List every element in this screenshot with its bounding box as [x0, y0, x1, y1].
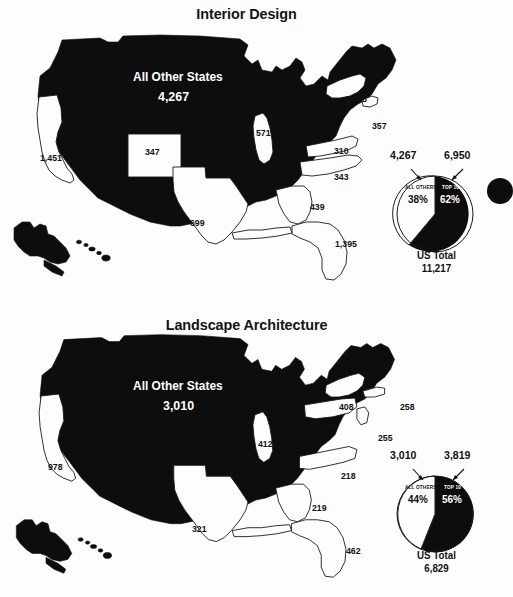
- pie-label-all-others-name: ALL OTHERS: [405, 184, 437, 190]
- pie-label-all-others-pct: 38%: [408, 193, 428, 205]
- panel-landscape-architecture: Landscape Architecture: [0, 300, 493, 597]
- label-california: 1,451: [40, 153, 62, 163]
- pie-callout-all-others-value: 3,010: [390, 449, 416, 461]
- all-other-states-value: 4,267: [158, 90, 189, 104]
- label-florida: 1,395: [335, 239, 357, 249]
- all-other-states-label: All Other States: [133, 379, 223, 392]
- label-illinois: 571: [256, 128, 271, 138]
- label-new-york: 1,038: [345, 94, 367, 104]
- label-florida: 462: [346, 546, 361, 556]
- state-florida: [292, 520, 346, 577]
- pie-chart-interior-design: 4,267 6,950 ALL OTHERS 38% TOP 10 62% US…: [380, 145, 493, 285]
- pie-label-all-others-name: ALL OTHERS: [405, 484, 437, 490]
- state-hawaii: [76, 240, 110, 261]
- pie-total-value: 11,217: [384, 262, 489, 275]
- label-georgia: 219: [312, 503, 327, 513]
- pie-total-value: 6,829: [384, 562, 489, 575]
- state-georgia: [276, 186, 312, 224]
- state-new-jersey: [357, 407, 369, 425]
- adjacent-pie-edge-sliver: [487, 178, 513, 204]
- pie-total-label: US Total: [384, 249, 489, 262]
- state-georgia: [276, 484, 312, 522]
- pie-chart-landscape-architecture: 3,010 3,819 ALL OTHERS 44% TOP 10 56% US…: [380, 445, 493, 585]
- label-pennsylvania: 288: [322, 422, 337, 432]
- label-texas: 699: [190, 218, 205, 228]
- pie-callout-top10-value: 3,819: [444, 449, 470, 461]
- label-texas: 321: [192, 524, 207, 534]
- pie-label-top10-pct: 62%: [440, 193, 460, 205]
- label-virginia: 310: [334, 146, 349, 156]
- pie-total-label: US Total: [384, 549, 489, 562]
- all-other-states-value: 3,010: [163, 399, 194, 413]
- label-massachusetts: 258: [400, 402, 415, 412]
- label-new-york: 408: [339, 402, 354, 412]
- pie-label-top10-name: TOP 10: [442, 184, 459, 190]
- state-hawaii: [78, 538, 111, 559]
- pie-label-top10-pct: 56%: [442, 493, 462, 505]
- label-north-carolina: 343: [334, 172, 349, 182]
- label-connecticut: 357: [372, 121, 387, 131]
- pie-label-top10-name: TOP 10: [444, 484, 461, 490]
- pie-callout-all-others-value: 4,267: [390, 149, 416, 161]
- state-florida: [292, 222, 347, 280]
- panel-interior-design: Interior Design: [0, 0, 493, 300]
- pie-label-all-others-pct: 44%: [408, 493, 428, 505]
- label-california: 978: [48, 462, 63, 472]
- label-illinois: 412: [258, 439, 273, 449]
- all-other-states-label: All Other States: [133, 70, 223, 83]
- label-colorado: 347: [145, 147, 160, 157]
- gulf-coast-outline: [232, 227, 292, 239]
- pie-callout-top10-value: 6,950: [444, 149, 470, 161]
- state-alaska: [16, 520, 71, 573]
- state-alaska: [14, 222, 70, 276]
- label-virginia: 218: [341, 471, 356, 481]
- label-new-jersey: 255: [378, 433, 393, 443]
- label-georgia: 439: [310, 202, 325, 212]
- gulf-coast-outline: [232, 525, 291, 537]
